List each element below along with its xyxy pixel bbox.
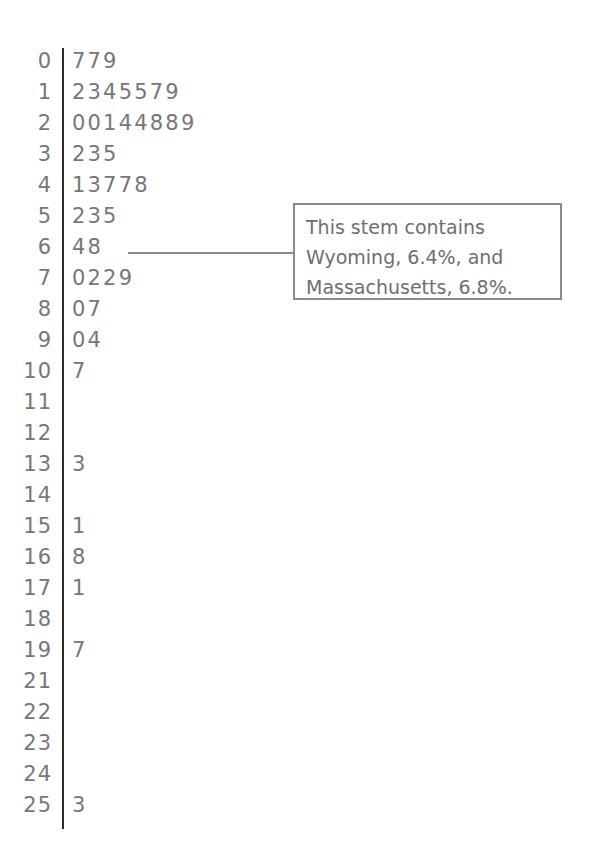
stem-value: 21 (0, 666, 52, 697)
leaf-values: 7 (72, 356, 88, 387)
stem-value: 10 (0, 356, 52, 387)
stem-leaf-row: 22 (0, 697, 280, 728)
stem-leaf-row: 171 (0, 573, 280, 604)
leaf-values: 3 (72, 790, 88, 821)
leaf-values: 3 (72, 449, 88, 480)
stem-leaf-row: 23 (0, 728, 280, 759)
stem-leaf-row: 133 (0, 449, 280, 480)
leaf-values: 235 (72, 201, 119, 232)
stem-value: 14 (0, 480, 52, 511)
stem-leaf-row: 18 (0, 604, 280, 635)
callout-line: Wyoming, 6.4%, and (306, 242, 550, 272)
stem-value: 15 (0, 511, 52, 542)
leaf-values: 1 (72, 511, 88, 542)
leaf-values: 8 (72, 542, 88, 573)
stem-value: 6 (0, 232, 52, 263)
stem-leaf-row: 12 (0, 418, 280, 449)
stem-value: 8 (0, 294, 52, 325)
leaf-values: 779 (72, 46, 119, 77)
stem-leaf-row: 21 (0, 666, 280, 697)
stem-leaf-row: 413778 (0, 170, 280, 201)
stem-leaf-row: 197 (0, 635, 280, 666)
stem-value: 3 (0, 139, 52, 170)
leaf-values: 13778 (72, 170, 150, 201)
stem-leaf-row: 107 (0, 356, 280, 387)
callout-leader-line (128, 252, 294, 254)
stem-value: 22 (0, 697, 52, 728)
leaf-values: 7 (72, 635, 88, 666)
leaf-values: 0229 (72, 263, 134, 294)
stem-value: 18 (0, 604, 52, 635)
leaf-values: 2345579 (72, 77, 181, 108)
stem-value: 1 (0, 77, 52, 108)
stem-value: 0 (0, 46, 52, 77)
stem-leaf-row: 648 (0, 232, 280, 263)
stem-value: 7 (0, 263, 52, 294)
stem-leaf-row: 12345579 (0, 77, 280, 108)
stem-leaf-row: 3235 (0, 139, 280, 170)
leaf-values: 1 (72, 573, 88, 604)
stem-value: 13 (0, 449, 52, 480)
callout-line: Massachusetts, 6.8%. (306, 272, 550, 302)
stem-value: 11 (0, 387, 52, 418)
stem-leaf-row: 151 (0, 511, 280, 542)
callout-line: This stem contains (306, 212, 550, 242)
leaf-values: 07 (72, 294, 103, 325)
stem-leaf-row: 0779 (0, 46, 280, 77)
stem-value: 12 (0, 418, 52, 449)
stem-value: 4 (0, 170, 52, 201)
stem-value: 23 (0, 728, 52, 759)
leaf-values: 48 (72, 232, 103, 263)
stem-value: 24 (0, 759, 52, 790)
stem-leaf-row: 807 (0, 294, 280, 325)
stem-value: 17 (0, 573, 52, 604)
stem-leaf-row: 904 (0, 325, 280, 356)
leaf-values: 04 (72, 325, 103, 356)
stem-leaf-row: 200144889 (0, 108, 280, 139)
callout-box: This stem contains Wyoming, 6.4%, and Ma… (293, 203, 562, 300)
leaf-values: 235 (72, 139, 119, 170)
stem-leaf-row: 11 (0, 387, 280, 418)
stem-value: 9 (0, 325, 52, 356)
stem-and-leaf-plot: 0779123455792001448893235413778523564870… (0, 0, 597, 868)
stem-leaf-row: 5235 (0, 201, 280, 232)
stem-leaf-row: 168 (0, 542, 280, 573)
stem-leaf-row-list: 0779123455792001448893235413778523564870… (0, 46, 280, 821)
stem-value: 16 (0, 542, 52, 573)
stem-value: 5 (0, 201, 52, 232)
stem-value: 19 (0, 635, 52, 666)
leaf-values: 00144889 (72, 108, 197, 139)
stem-leaf-row: 14 (0, 480, 280, 511)
stem-leaf-row: 253 (0, 790, 280, 821)
stem-leaf-row: 24 (0, 759, 280, 790)
stem-leaf-row: 70229 (0, 263, 280, 294)
stem-value: 2 (0, 108, 52, 139)
stem-value: 25 (0, 790, 52, 821)
